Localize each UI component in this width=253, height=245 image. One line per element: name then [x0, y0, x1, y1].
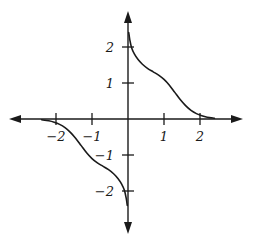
graph-figure: −2 −1 1 2 2 1 −1 −2: [0, 0, 253, 245]
y-tick-label-pos2: 2: [105, 40, 114, 55]
x-tick-label-neg2: −2: [46, 129, 65, 144]
x-axis-left-arrow-icon: [9, 115, 21, 123]
x-tick-label-neg1: −1: [82, 129, 101, 144]
y-tick-label-neg1: −1: [95, 148, 114, 163]
curve-upper-right-branch: [129, 33, 215, 119]
y-tick-label-pos1: 1: [106, 76, 114, 91]
plot-svg: −2 −1 1 2 2 1 −1 −2: [0, 0, 253, 245]
x-axis: [9, 115, 243, 123]
x-axis-right-arrow-icon: [231, 115, 243, 123]
y-tick-label-neg2: −2: [95, 184, 114, 199]
x-tick-label-pos1: 1: [160, 129, 168, 144]
y-axis-down-arrow-icon: [124, 222, 132, 234]
y-axis-up-arrow-icon: [124, 11, 132, 23]
x-tick-label-pos2: 2: [195, 129, 204, 144]
